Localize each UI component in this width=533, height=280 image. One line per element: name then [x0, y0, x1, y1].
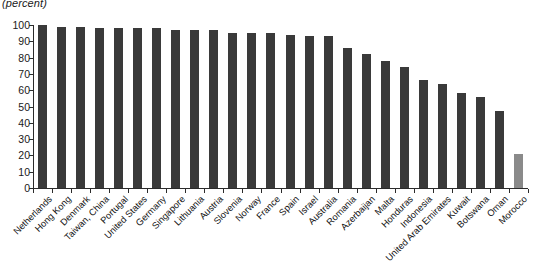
x-axis-tick-mark: [357, 189, 358, 193]
x-axis-tick-mark: [395, 189, 396, 193]
x-axis-tick-mark: [414, 189, 415, 193]
x-axis-tick-mark: [338, 189, 339, 193]
x-axis-tick-mark: [128, 189, 129, 193]
y-axis-tick-label-20: 20: [2, 149, 30, 161]
y-axis-tick-label-90: 90: [2, 35, 30, 47]
x-axis-tick-mark: [109, 189, 110, 193]
x-axis-tick-mark: [204, 189, 205, 193]
bar: [266, 33, 275, 188]
x-axis-category-label: Spain: [277, 194, 301, 218]
x-axis-tick-mark: [33, 189, 34, 193]
bar: [38, 25, 47, 188]
bar: [57, 27, 66, 188]
bar: [228, 33, 237, 188]
bar: [457, 93, 466, 188]
bar: [343, 48, 352, 188]
x-axis-tick-mark: [223, 189, 224, 193]
bar: [114, 28, 123, 188]
bar: [381, 61, 390, 188]
x-axis-tick-mark: [509, 189, 510, 193]
x-axis-tick-mark: [147, 189, 148, 193]
x-axis-tick-mark: [242, 189, 243, 193]
x-axis-tick-mark: [319, 189, 320, 193]
bar: [190, 30, 199, 188]
x-axis-tick-mark: [300, 189, 301, 193]
y-axis-tick-label-50: 50: [2, 101, 30, 113]
bar: [476, 97, 485, 188]
bar: [76, 27, 85, 188]
bar: [362, 54, 371, 188]
x-axis-tick-mark: [166, 189, 167, 193]
plot-area: [33, 25, 528, 188]
bar: [305, 36, 314, 188]
chart-figure: (percent) 0102030405060708090100 Netherl…: [0, 0, 533, 280]
bar: [438, 84, 447, 188]
bar: [514, 154, 523, 188]
x-axis-tick-mark: [52, 189, 53, 193]
x-axis-tick-mark: [281, 189, 282, 193]
y-axis-tick-label-60: 60: [2, 84, 30, 96]
x-axis-tick-mark: [376, 189, 377, 193]
y-axis-tick-label-10: 10: [2, 166, 30, 178]
x-axis-tick-mark: [185, 189, 186, 193]
bar: [95, 28, 104, 188]
x-axis-tick-mark: [528, 189, 529, 193]
bar: [495, 111, 504, 188]
y-axis-tick-label-80: 80: [2, 52, 30, 64]
y-axis-tick-label-100: 100: [2, 19, 30, 31]
y-axis-tick-label-30: 30: [2, 133, 30, 145]
x-axis-tick-mark: [261, 189, 262, 193]
x-axis-tick-mark: [433, 189, 434, 193]
bar: [247, 33, 256, 188]
bar: [133, 28, 142, 188]
bar: [152, 28, 161, 188]
x-axis-tick-mark: [452, 189, 453, 193]
x-axis-tick-mark: [471, 189, 472, 193]
y-axis-tick-label-40: 40: [2, 117, 30, 129]
bar: [400, 67, 409, 188]
y-axis-labels: 0102030405060708090100: [0, 0, 30, 280]
bar: [171, 30, 180, 188]
x-axis-tick-mark: [90, 189, 91, 193]
bar: [209, 30, 218, 188]
y-axis-tick-label-0: 0: [2, 182, 30, 194]
y-axis-tick-label-70: 70: [2, 68, 30, 80]
x-axis-tick-mark: [490, 189, 491, 193]
bar: [286, 35, 295, 188]
x-axis-tick-mark: [71, 189, 72, 193]
x-axis-labels: NetherlandsHong KongDenmarkTaiwan, China…: [33, 194, 528, 280]
bar: [324, 36, 333, 188]
bar: [419, 80, 428, 188]
